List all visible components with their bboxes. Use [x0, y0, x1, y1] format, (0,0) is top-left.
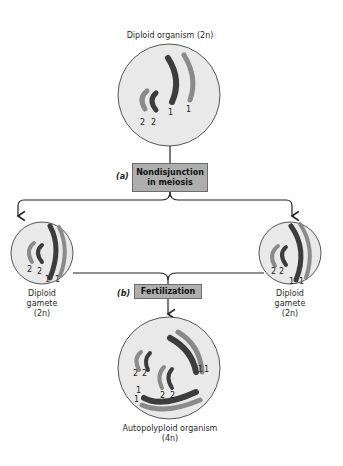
step-b-letter: (b)	[117, 289, 130, 298]
svg-text:2: 2	[133, 369, 138, 378]
left-gamete-line2: gamete	[12, 299, 72, 309]
right-gamete-line2: gamete	[260, 299, 320, 309]
top-cell-title: Diploid organism (2n)	[100, 31, 240, 41]
left-gamete-cell: 2 2 1 1	[11, 222, 73, 284]
top-cell-ploidy: (2n)	[197, 31, 213, 40]
right-gamete-ploidy: (2n)	[260, 309, 320, 319]
svg-text:1: 1	[134, 395, 139, 404]
arrow-to-left-gamete	[18, 192, 170, 216]
bottom-cell-label: Autopolyploid organism (4n)	[90, 424, 250, 444]
svg-text:1: 1	[186, 105, 191, 114]
arrow-to-right-gamete	[170, 192, 292, 216]
right-gamete-line1: Diploid	[260, 289, 320, 299]
svg-text:1: 1	[204, 365, 209, 374]
step-b-label: Fertilization	[135, 287, 201, 297]
svg-text:1: 1	[198, 365, 203, 374]
left-gamete-line1: Diploid	[12, 289, 72, 299]
left-gamete-ploidy: (2n)	[12, 309, 72, 319]
right-gamete-label: Diploid gamete (2n)	[260, 289, 320, 319]
svg-text:1: 1	[289, 277, 294, 286]
left-gamete-label: Diploid gamete (2n)	[12, 289, 72, 319]
svg-text:2: 2	[27, 265, 32, 274]
svg-text:2: 2	[140, 118, 145, 127]
svg-text:2: 2	[160, 391, 165, 400]
top-cell: 2 2 1 1	[118, 44, 220, 146]
bottom-cell-title: Autopolyploid organism	[90, 424, 250, 434]
svg-text:1: 1	[136, 386, 141, 395]
step-a-line1: Nondisjunction	[133, 168, 207, 178]
svg-text:2: 2	[170, 391, 175, 400]
top-cell-title-text: Diploid organism	[127, 31, 195, 40]
step-a-box: Nondisjunction in meiosis	[132, 163, 208, 192]
svg-text:2: 2	[279, 267, 284, 276]
diagram-canvas: 2 2 1 1 2 2 1 1 2 2 1 1	[0, 0, 343, 466]
svg-text:1: 1	[45, 275, 50, 284]
svg-text:1: 1	[55, 275, 60, 284]
svg-text:1: 1	[299, 277, 304, 286]
step-a-line2: in meiosis	[133, 178, 207, 188]
svg-text:2: 2	[271, 267, 276, 276]
bottom-cell-ploidy: (4n)	[90, 434, 250, 444]
step-a-letter: (a)	[116, 172, 129, 181]
step-b-box: Fertilization	[134, 284, 202, 299]
svg-text:2: 2	[151, 118, 156, 127]
svg-text:2: 2	[37, 267, 42, 276]
right-gamete-cell: 2 2 1 1	[259, 222, 321, 286]
svg-text:2: 2	[142, 369, 147, 378]
svg-text:1: 1	[168, 108, 173, 117]
bottom-cell: 2 2 2 2 1 1 1 1	[118, 317, 220, 419]
